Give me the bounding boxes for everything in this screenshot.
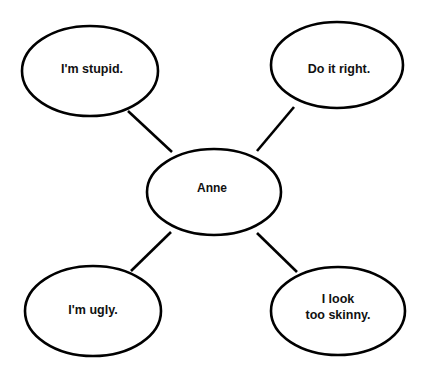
node-bottom-left[interactable]: I'm ugly. <box>25 266 161 356</box>
node-top-right[interactable]: Do it right. <box>271 22 403 108</box>
node-label-bottom-left: I'm ugly. <box>68 303 117 317</box>
node-bottom-right[interactable]: I looktoo skinny. <box>271 267 405 355</box>
connector-center-to-top-right <box>257 107 294 151</box>
node-label-center: Anne <box>197 181 227 195</box>
connector-center-to-bottom-right <box>257 233 297 272</box>
cluster-diagram: I'm stupid. Do it right. I'm ugly. I loo… <box>0 0 425 379</box>
connector-center-to-bottom-left <box>131 232 171 271</box>
diagram-canvas: I'm stupid. Do it right. I'm ugly. I loo… <box>0 0 425 379</box>
node-label-top-left: I'm stupid. <box>61 62 123 76</box>
node-center[interactable]: Anne <box>147 149 281 235</box>
node-label-top-right: Do it right. <box>308 62 371 76</box>
connector-center-to-top-left <box>128 111 172 152</box>
node-top-left[interactable]: I'm stupid. <box>22 26 158 116</box>
